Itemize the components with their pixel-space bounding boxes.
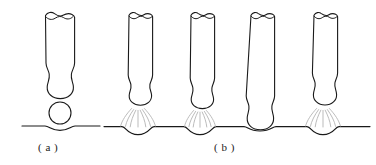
workpiece-baseline-b bbox=[104, 127, 370, 135]
arc-rays-electrode-4 bbox=[306, 109, 341, 128]
electrode-b-3-outline bbox=[246, 13, 274, 130]
panel-b-group bbox=[104, 13, 370, 135]
panel-b-caption: ( b ) bbox=[214, 141, 235, 153]
workpiece-baseline-a bbox=[22, 126, 100, 130]
electrode-b-1-outline bbox=[128, 13, 152, 106]
panel-a-caption: ( a ) bbox=[38, 141, 58, 153]
droplet-a bbox=[49, 102, 71, 124]
arc-rays-electrode-2 bbox=[185, 111, 216, 128]
electrode-b-4-outline bbox=[312, 13, 337, 105]
panel-a-group bbox=[22, 12, 100, 130]
electrode-a-outline bbox=[46, 12, 75, 98]
arc-rays-electrode-1 bbox=[121, 109, 156, 128]
electrode-b-2-outline bbox=[190, 13, 214, 109]
welding-droplet-transfer-figure: ( a ) ( b ) bbox=[0, 0, 376, 165]
